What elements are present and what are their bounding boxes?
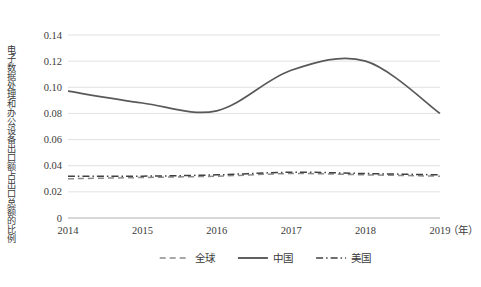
legend-label-中国: 中国 <box>273 252 293 264</box>
legend-label-全球: 全球 <box>195 252 216 264</box>
gridlines-group <box>68 35 440 218</box>
legend: 全球中国美国 <box>160 252 371 264</box>
x-axis-unit-label: （年） <box>448 224 478 236</box>
x-tick-label: 2017 <box>281 225 302 236</box>
chart-plot: 00.020.040.060.080.100.120.14 2014201520… <box>0 0 481 287</box>
x-unit-text: （年） <box>448 224 478 236</box>
x-tick-label: 2014 <box>58 225 80 236</box>
y-tick-label: 0.08 <box>44 108 62 119</box>
chart-container: 电子数据处理和办公设备出口额占出口总额的比例 00.020.040.060.08… <box>0 0 481 287</box>
x-tick-labels-group: 201420152016201720182019 <box>58 225 451 236</box>
y-tick-label: 0 <box>57 213 62 224</box>
series-line-全球 <box>68 174 440 179</box>
y-tick-label: 0.06 <box>44 134 62 145</box>
series-lines-group <box>68 58 440 178</box>
y-tick-label: 0.14 <box>44 30 63 41</box>
series-line-美国 <box>68 172 440 176</box>
y-tick-labels-group: 00.020.040.060.080.100.120.14 <box>44 30 63 224</box>
y-tick-label: 0.04 <box>44 160 63 171</box>
legend-label-美国: 美国 <box>351 252 371 264</box>
y-tick-label: 0.12 <box>44 56 62 67</box>
x-tick-label: 2016 <box>206 225 227 236</box>
x-tick-label: 2015 <box>132 225 153 236</box>
y-tick-label: 0.02 <box>44 186 62 197</box>
series-line-中国 <box>68 58 440 113</box>
y-tick-label: 0.10 <box>44 82 62 93</box>
x-tick-label: 2018 <box>355 225 376 236</box>
